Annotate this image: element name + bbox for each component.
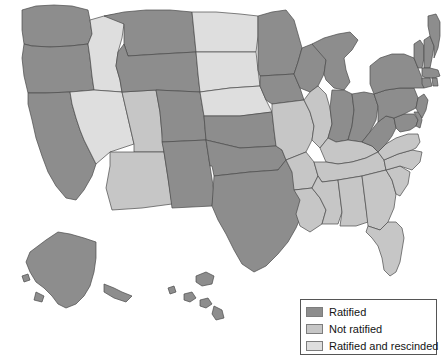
legend-swatch-ratified-and-rescinded — [306, 341, 323, 351]
legend-swatch-not-ratified — [306, 324, 323, 334]
state-MA[interactable] — [422, 68, 440, 78]
states-layer — [22, 5, 440, 320]
legend-label-not-ratified: Not ratified — [329, 323, 382, 335]
legend-item-not-ratified[interactable]: Not ratified — [306, 320, 432, 337]
state-MN[interactable] — [258, 10, 302, 76]
legend-item-ratified[interactable]: Ratified — [306, 303, 432, 320]
state-SD[interactable] — [196, 52, 260, 92]
state-AK[interactable] — [22, 232, 132, 308]
state-FL[interactable] — [366, 222, 404, 276]
state-TX[interactable] — [212, 160, 306, 272]
state-WA[interactable] — [22, 5, 92, 47]
legend-label-ratified-and-rescinded: Ratified and rescinded — [329, 340, 438, 352]
state-RI[interactable] — [432, 78, 438, 86]
state-NE[interactable] — [200, 86, 272, 116]
map-legend: Ratified Not ratified Ratified and resci… — [300, 299, 437, 355]
state-HI[interactable] — [168, 272, 224, 320]
legend-item-ratified-and-rescinded[interactable]: Ratified and rescinded — [306, 337, 432, 354]
state-OR[interactable] — [22, 44, 94, 93]
state-CO[interactable] — [156, 90, 206, 142]
legend-swatch-ratified — [306, 307, 323, 317]
state-GA[interactable] — [362, 170, 396, 230]
legend-label-ratified: Ratified — [329, 306, 366, 318]
state-ND[interactable] — [192, 12, 258, 52]
state-CT[interactable] — [422, 78, 432, 88]
us-ratification-map: Ratified Not ratified Ratified and resci… — [0, 0, 441, 358]
state-AZ[interactable] — [106, 152, 172, 210]
